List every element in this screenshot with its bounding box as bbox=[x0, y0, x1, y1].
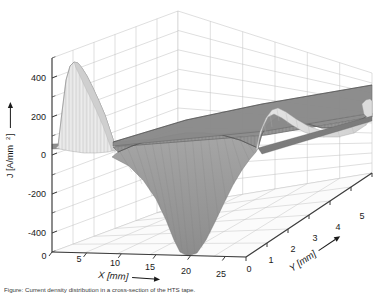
surface-plot-3d: 400 200 0 -200 -400 J [A/mm 2 ] bbox=[0, 0, 385, 294]
zaxis-label: J [A/mm bbox=[5, 145, 15, 178]
yaxis-arrow-icon bbox=[334, 234, 342, 242]
zaxis-arrow-icon bbox=[8, 102, 13, 108]
axis-x: 0 5 10 15 20 25 X [mm] bbox=[41, 251, 246, 284]
ztick-neg200: -200 bbox=[28, 189, 46, 199]
ytick-0: 0 bbox=[246, 264, 251, 274]
ztick-400: 400 bbox=[31, 73, 46, 83]
xaxis-arrow-icon bbox=[154, 276, 160, 282]
axis-z: 400 200 0 -200 -400 J [A/mm 2 ] bbox=[5, 57, 57, 252]
xtick-20: 20 bbox=[181, 266, 191, 276]
xtick-5: 5 bbox=[76, 254, 81, 264]
ztick-neg400: -400 bbox=[28, 228, 46, 238]
ytick-4: 4 bbox=[335, 222, 340, 232]
ytick-1: 1 bbox=[268, 255, 273, 265]
ytick-3: 3 bbox=[312, 233, 317, 243]
xaxis-label: X [mm] bbox=[97, 269, 129, 282]
xtick-0: 0 bbox=[41, 251, 46, 261]
figure-container: 400 200 0 -200 -400 J [A/mm 2 ] bbox=[0, 0, 385, 294]
ytick-2: 2 bbox=[290, 244, 295, 254]
xtick-10: 10 bbox=[110, 258, 120, 268]
ztick-200: 200 bbox=[31, 112, 46, 122]
xtick-15: 15 bbox=[145, 262, 155, 272]
ytick-5: 5 bbox=[359, 211, 364, 221]
xtick-25: 25 bbox=[216, 269, 226, 279]
figure-caption: Figure: Current density distribution in … bbox=[4, 286, 382, 293]
ztick-0: 0 bbox=[41, 150, 46, 160]
zaxis-label-close: ] bbox=[5, 133, 15, 136]
